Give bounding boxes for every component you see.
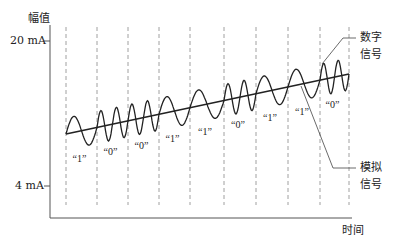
bit-label: “1” bbox=[198, 126, 212, 137]
digital-signal-leader bbox=[322, 38, 356, 64]
analog-signal-label-line2: 信号 bbox=[360, 178, 382, 192]
bit-label: “0” bbox=[231, 119, 245, 130]
digital-signal-label-line2: 信号 bbox=[360, 48, 382, 62]
bit-label: “1” bbox=[295, 106, 309, 117]
y-tick-label-4ma: 4 mA bbox=[15, 179, 44, 193]
bit-label: “1” bbox=[73, 153, 87, 164]
y-axis-label: 幅值 bbox=[28, 12, 50, 26]
bit-label: “0” bbox=[135, 140, 149, 151]
analog-signal-label-line1: 模拟 bbox=[360, 161, 382, 175]
bit-label: “0” bbox=[104, 146, 118, 157]
bit-label: “1” bbox=[263, 112, 277, 123]
diagram-canvas bbox=[0, 0, 394, 243]
y-tick-label-20ma: 20 mA bbox=[10, 34, 46, 48]
x-axis-label: 时间 bbox=[342, 224, 364, 238]
bit-label: “0” bbox=[326, 99, 340, 110]
bit-label: “1” bbox=[166, 133, 180, 144]
digital-signal-label-line1: 数字 bbox=[360, 31, 382, 45]
